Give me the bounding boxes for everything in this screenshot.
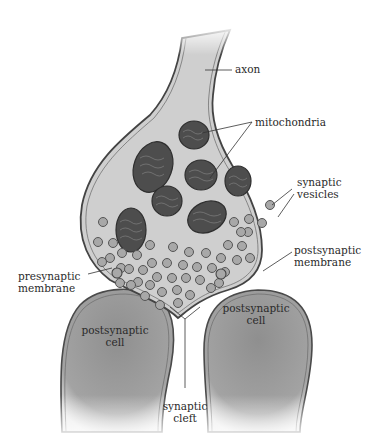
label-presynaptic-membrane-2: membrane (18, 282, 75, 294)
label-synaptic-cleft-1: synaptic (163, 400, 208, 412)
label-postsynaptic-cell-left-1: postsynaptic (81, 324, 148, 336)
label-presynaptic-membrane-1: presynaptic (18, 270, 81, 282)
mitochondrion (179, 121, 209, 149)
label-mitochondria: mitochondria (255, 116, 326, 128)
label-postsynaptic-membrane-2: membrane (294, 256, 351, 268)
label-postsynaptic-cell-right-2: cell (247, 314, 266, 326)
label-synaptic-vesicles-1: synaptic (297, 176, 342, 188)
label-synaptic-cleft-2: cleft (173, 412, 197, 424)
label-postsynaptic-membrane-1: postsynaptic (294, 244, 361, 256)
label-axon: axon (235, 63, 261, 75)
mitochondrion (152, 186, 182, 216)
mitochondrion (116, 208, 146, 252)
label-postsynaptic-cell-left-2: cell (106, 336, 125, 348)
synapse-diagram: axon mitochondria synaptic vesicles post… (0, 0, 372, 443)
label-postsynaptic-cell-right-1: postsynaptic (222, 302, 289, 314)
label-synaptic-vesicles-2: vesicles (296, 188, 339, 200)
mitochondrion (225, 166, 251, 196)
